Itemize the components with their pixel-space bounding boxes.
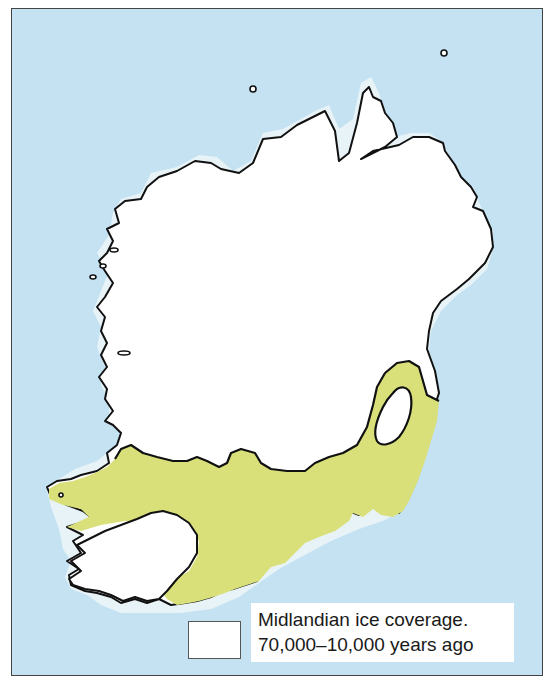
map-frame: Midlandian ice coverage. 70,000–10,000 y…	[11, 8, 543, 676]
legend: Midlandian ice coverage. 70,000–10,000 y…	[251, 603, 514, 662]
ireland-map	[11, 8, 543, 676]
legend-swatch-ice	[188, 621, 241, 659]
legend-title: Midlandian ice coverage.	[258, 607, 514, 632]
legend-date-range: 70,000–10,000 years ago	[258, 632, 514, 657]
